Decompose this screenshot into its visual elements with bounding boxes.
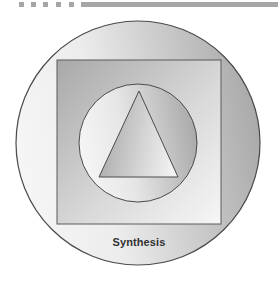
diagram-caption: Synthesis [0, 236, 278, 248]
